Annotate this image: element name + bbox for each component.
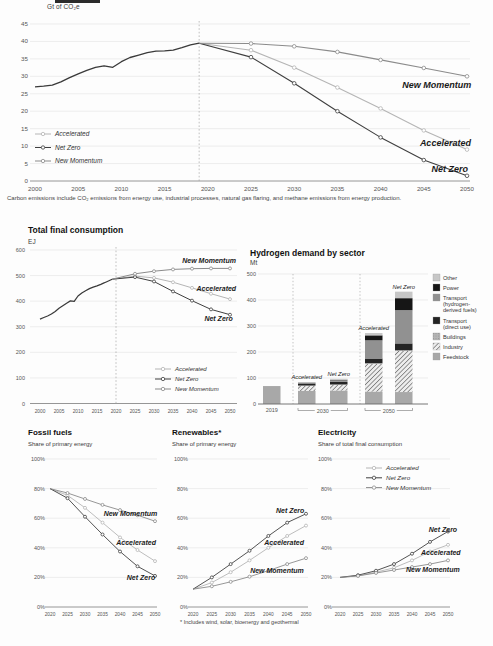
history-line (35, 43, 199, 87)
bar-2050-accelerated-buildings (365, 363, 383, 364)
bar-2030-net-zero-other (330, 379, 348, 380)
bar-2030-accelerated-transport-hydrogen-derived-fuels (298, 383, 316, 384)
svg-text:2000: 2000 (28, 185, 42, 192)
accelerated-marker (422, 129, 426, 133)
net-zero-line (50, 489, 155, 576)
hydrogen-plot: 0100200300400500AcceleratedNet ZeroAccel… (247, 271, 477, 414)
svg-text:0: 0 (253, 401, 256, 407)
report-page: Gt of CO₂e 05101520253035404520002005201… (0, 0, 493, 646)
net-zero-marker (465, 174, 469, 178)
renewables-plot: 0%20%40%60%80%100%2020202520302035204020… (174, 456, 312, 617)
new-momentum-marker (210, 585, 213, 588)
svg-text:40%: 40% (177, 545, 188, 551)
bar-2030-accelerated-industry (298, 386, 316, 391)
legend-industry: Industry (443, 344, 463, 350)
svg-text:300: 300 (247, 323, 256, 329)
svg-text:100%: 100% (174, 456, 188, 462)
svg-text:2040: 2040 (115, 612, 126, 617)
svg-text:2000: 2000 (35, 409, 46, 414)
net-zero-marker (292, 82, 296, 86)
accelerated-marker (336, 86, 340, 90)
legend-swatch-industry (433, 343, 440, 350)
accelerated-marker (101, 521, 104, 524)
svg-text:400: 400 (247, 297, 256, 303)
renewables-footnote: * Includes wind, solar, bioenergy and ge… (180, 619, 299, 625)
net-zero-marker (210, 308, 213, 311)
svg-text:100%: 100% (318, 456, 332, 462)
bar-label-accelerated: Accelerated (357, 325, 389, 331)
svg-text:2025: 2025 (353, 612, 364, 617)
annotation-new-momentum: New Momentum (182, 257, 236, 264)
svg-text:0: 0 (22, 401, 25, 407)
legend-swatch-buildings (433, 333, 440, 340)
legend-transport-direct-use: Transport (443, 318, 467, 324)
accelerated-marker (172, 281, 175, 284)
svg-text:2015: 2015 (158, 185, 172, 192)
new-momentum-marker (191, 267, 194, 270)
svg-text:20: 20 (21, 107, 28, 114)
legend-accelerated: Accelerated (54, 130, 90, 137)
svg-text:400: 400 (16, 298, 25, 304)
electricity-chart: 0%20%40%60%80%100%2020202520302035204020… (305, 452, 493, 630)
fossil-fuels-chart: 0%20%40%60%80%100%2020202520302035204020… (0, 452, 165, 630)
accelerated-marker (84, 506, 87, 509)
accelerated-marker (286, 534, 289, 537)
new-momentum-marker (336, 50, 340, 54)
accelerated-marker (248, 559, 251, 562)
svg-text:2035: 2035 (244, 612, 255, 617)
net-zero-marker (249, 55, 253, 59)
electricity-title: Electricity (318, 428, 356, 437)
svg-text:2025: 2025 (62, 612, 73, 617)
bar-2050-net-zero-transport-hydrogen-derived-fuels (395, 310, 413, 343)
accelerated-marker (465, 148, 469, 152)
svg-text:2020: 2020 (201, 185, 215, 192)
accelerated-marker (447, 543, 450, 546)
new-momentum-marker (379, 58, 383, 62)
svg-text:600: 600 (16, 247, 25, 253)
new-momentum-marker (292, 45, 296, 49)
svg-text:10: 10 (21, 142, 28, 149)
svg-text:80%: 80% (321, 486, 332, 492)
svg-text:500: 500 (16, 273, 25, 279)
bar-2030-net-zero-industry (330, 385, 348, 391)
accelerated-marker (210, 581, 213, 584)
svg-text:2005: 2005 (71, 185, 85, 192)
tfc-plot: 0100200300400500600200020052010201520202… (16, 247, 237, 414)
svg-text:40%: 40% (34, 545, 45, 551)
annotation-new-momentum: New Momentum (402, 80, 471, 90)
bar-2030-accelerated-feedstock (298, 391, 316, 404)
svg-text:2050: 2050 (460, 185, 474, 192)
tfc-unit-label: EJ (28, 238, 36, 245)
new-momentum-marker (375, 571, 378, 574)
carbon-emissions-chart: 0510152025303540452000200520102015202020… (0, 12, 493, 204)
bar-label-accelerated: Accelerated (290, 374, 322, 380)
legend-swatch-transport-direct-use (433, 317, 440, 324)
net-zero-marker (84, 515, 87, 518)
svg-text:45: 45 (21, 20, 28, 27)
svg-text:2045: 2045 (132, 612, 143, 617)
net-zero-marker (393, 563, 396, 566)
bar-2050-net-zero-industry (395, 351, 413, 392)
annotation-net-zero: Net Zero (276, 507, 305, 514)
tfc-title: Total final consumption (28, 225, 123, 235)
electricity-subtitle: Share of total final consumption (318, 441, 402, 447)
svg-text:60%: 60% (34, 515, 45, 521)
svg-text:2035: 2035 (331, 185, 345, 192)
bar-2030-net-zero-transport-direct-use (330, 382, 348, 385)
svg-text:25: 25 (21, 90, 28, 97)
svg-text:0%: 0% (180, 604, 188, 610)
electricity-plot: 0%20%40%60%80%100%2020202520302035204020… (318, 456, 461, 617)
renewables-subtitle: Share of primary energy (172, 441, 236, 447)
svg-text:2030: 2030 (371, 612, 382, 617)
annotation-accelerated: Accelerated (420, 549, 461, 556)
svg-text:2040: 2040 (407, 612, 418, 617)
svg-text:0: 0 (25, 177, 29, 184)
net-zero-marker (286, 521, 289, 524)
net-zero-marker (119, 550, 122, 553)
accelerated-line (193, 526, 306, 590)
svg-text:0%: 0% (324, 604, 332, 610)
renewables-title: Renewables* (172, 428, 221, 437)
legend-transport-direct-use: (direct use) (443, 324, 471, 330)
bar-2050-accelerated-transport-hydrogen-derived-fuels (365, 340, 383, 358)
svg-text:60%: 60% (321, 515, 332, 521)
